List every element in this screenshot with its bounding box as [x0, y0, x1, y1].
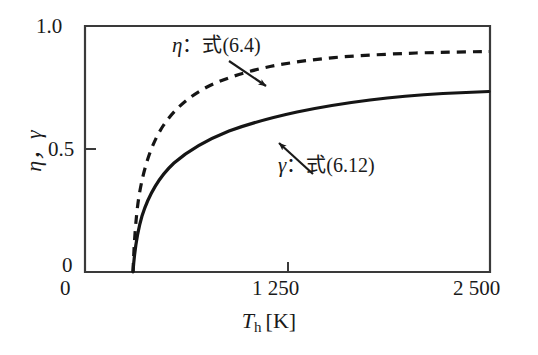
series-gamma-curve — [133, 92, 489, 273]
y-tick-label-0: 0 — [62, 255, 73, 276]
y-axis-title: η，γ — [23, 111, 45, 191]
x-axis-title: Th[K] — [0, 310, 538, 335]
eta-annotation-arrow — [229, 61, 266, 86]
eta-symbol: η — [172, 33, 182, 57]
x-tick-label-2500: 2 500 — [453, 278, 500, 299]
x-axis-title-subscript: h — [254, 319, 262, 335]
x-tick-label-0: 0 — [60, 278, 71, 299]
gamma-annotation-body: ：式(6.12) — [286, 154, 374, 176]
x-axis-title-unit: [K] — [266, 308, 297, 333]
y-tick-label-0.5: 0.5 — [48, 139, 74, 160]
gamma-annotation-label: γ：式(6.12) — [278, 155, 375, 176]
eta-annotation-label: η：式(6.4) — [172, 35, 261, 56]
chart-canvas — [0, 0, 538, 355]
x-axis-title-symbol: T — [242, 308, 254, 333]
chart-figure: 1.0 0.5 0 0 1 250 2 500 η，γ Th[K] η：式(6.… — [0, 0, 538, 355]
eta-annotation-body: ：式(6.4) — [182, 34, 260, 56]
y-tick-label-1.0: 1.0 — [36, 16, 62, 37]
x-tick-label-1250: 1 250 — [252, 278, 299, 299]
